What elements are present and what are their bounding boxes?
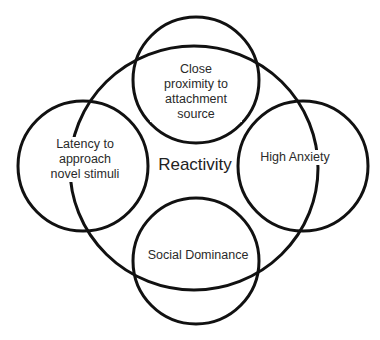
left-node-label: Latency to approach novel stimuli (42, 137, 128, 182)
right-node-label: High Anxiety (258, 150, 332, 165)
venn-diagram: Close proximity to attachment source Lat… (0, 0, 380, 340)
center-label-text: Reactivity (158, 155, 232, 174)
right-circle (238, 101, 368, 231)
label-line: novel stimuli (42, 167, 128, 182)
bottom-node-label: Social Dominance (146, 248, 250, 263)
label-line: High Anxiety (258, 150, 332, 165)
top-node-label: Close proximity to attachment source (150, 62, 242, 122)
label-line: Close (150, 62, 242, 77)
label-line: source (150, 107, 242, 122)
label-line: Latency to (42, 137, 128, 152)
label-line: proximity to (150, 77, 242, 92)
label-line: Social Dominance (146, 248, 250, 263)
label-line: attachment (150, 92, 242, 107)
label-line: approach (42, 152, 128, 167)
center-label: Reactivity (156, 155, 234, 175)
